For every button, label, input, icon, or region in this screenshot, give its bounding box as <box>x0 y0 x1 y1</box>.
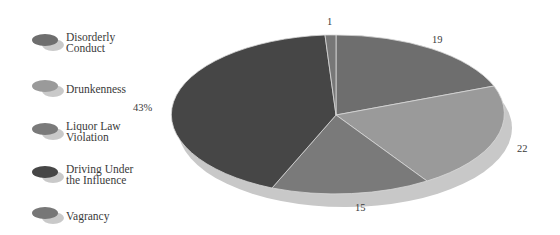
data-label-liquor-law-violation: 15 <box>355 202 366 213</box>
data-label-vagrancy: 1 <box>327 16 332 27</box>
data-label-drunkenness: 22 <box>517 143 528 154</box>
data-label-driving-under-the-influence: 43% <box>133 102 152 113</box>
data-label-disorderly-conduct: 19 <box>432 34 443 45</box>
pie-chart <box>0 0 560 235</box>
